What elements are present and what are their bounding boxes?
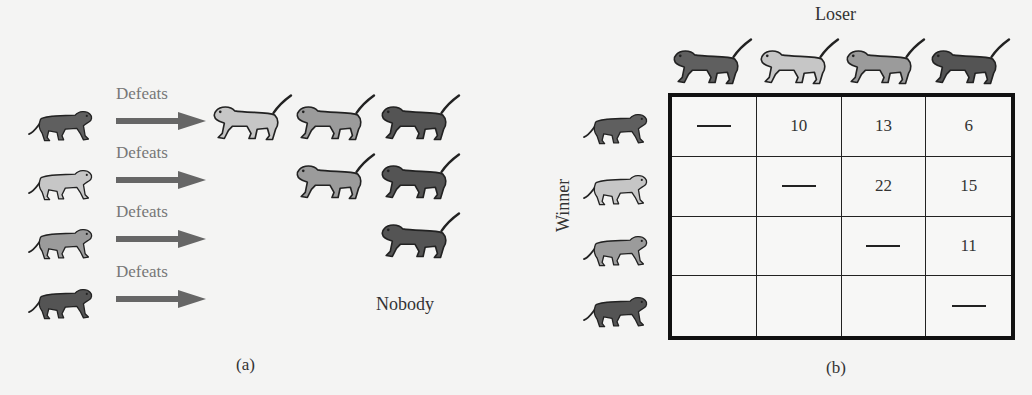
monkey-icon-loser-col-a [670,38,752,86]
monkey-icon-winner-a [25,106,99,144]
matrix-cell [842,276,927,336]
matrix-cell: 6 [926,97,1011,157]
monkey-icon-loser-c [293,94,375,142]
win-count: 15 [960,176,977,196]
monkey-icon-loser-col-c [843,38,925,86]
monkey-icon-winner-row-a [580,109,654,147]
right-arrow-icon [116,112,206,130]
matrix-cell-diagonal [842,217,927,277]
defeats-label: Defeats [116,202,168,222]
right-arrow-icon [116,171,206,189]
win-count: 10 [790,116,807,136]
win-count: 11 [960,236,976,256]
dash-mark [866,245,900,247]
matrix-cell: 11 [926,217,1011,277]
win-count: 22 [875,176,892,196]
defeats-label: Defeats [116,143,168,163]
matrix-cell [672,276,757,336]
monkey-icon-loser-col-d [928,38,1010,86]
monkey-icon-loser-col-b [757,38,839,86]
monkey-icon-loser-d [378,153,460,201]
monkey-icon-winner-b [25,165,99,203]
defeats-label: Defeats [116,84,168,104]
panel-a-caption: (a) [236,355,255,375]
monkey-icon-winner-c [25,224,99,262]
matrix-cell-diagonal [757,157,842,217]
dash-mark [697,125,731,127]
monkey-icon-loser-c [293,153,375,201]
monkey-icon-loser-d [378,212,460,260]
monkey-icon-winner-d [25,284,99,322]
right-arrow-icon [116,290,206,308]
monkey-icon-winner-row-b [580,170,654,208]
dash-mark [952,305,986,307]
loser-axis-title: Loser [815,4,856,25]
matrix-cell: 10 [757,97,842,157]
dash-mark [782,185,816,187]
win-count: 13 [875,116,892,136]
win-matrix-table: 10136221511 [668,93,1015,340]
matrix-cell-diagonal [926,276,1011,336]
panel-b-caption: (b) [826,358,846,378]
matrix-cell [757,276,842,336]
monkey-icon-winner-row-d [580,292,654,330]
monkey-icon-loser-d [378,94,460,142]
right-arrow-icon [116,230,206,248]
matrix-cell [757,217,842,277]
matrix-cell: 22 [842,157,927,217]
defeats-label: Defeats [116,262,168,282]
monkey-icon-loser-b [210,94,292,142]
matrix-cell-diagonal [672,97,757,157]
matrix-cell: 13 [842,97,927,157]
matrix-cell [672,217,757,277]
matrix-cell [672,157,757,217]
monkey-icon-winner-row-c [580,231,654,269]
win-count: 6 [964,116,973,136]
winner-axis-title: Winner [553,179,574,232]
nobody-label: Nobody [376,294,434,315]
matrix-cell: 15 [926,157,1011,217]
